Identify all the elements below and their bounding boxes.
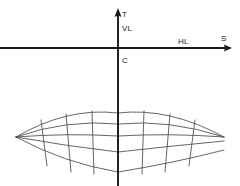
t-axis-label: T bbox=[122, 10, 127, 19]
horizon-line-label: HL bbox=[178, 37, 189, 46]
center-point-label: C bbox=[122, 56, 128, 65]
vertical-line-label: VL bbox=[122, 24, 133, 33]
label-layer: T VL HL S C bbox=[0, 0, 240, 186]
perspective-grid-figure: T VL HL S C bbox=[0, 0, 240, 186]
station-axis-label: S bbox=[221, 34, 227, 43]
